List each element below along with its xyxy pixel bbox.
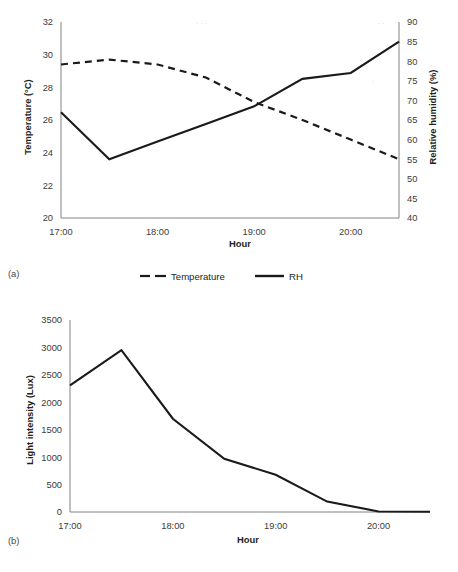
svg-text:22: 22 xyxy=(43,181,53,191)
chart-b-x-axis-title: Hour xyxy=(237,534,259,545)
chart-b-series-light-intensity xyxy=(70,350,430,512)
figure-container: · · · · · · 32302826242220 9085807570656… xyxy=(0,0,458,572)
chart-panel-b: 3500300025002000150010005000 17:0018:001… xyxy=(0,292,458,572)
scan-artifact: · · xyxy=(378,20,385,27)
chart-a-left-tick-labels: 32302826242220 xyxy=(43,17,53,223)
svg-text:19:00: 19:00 xyxy=(243,227,266,237)
svg-text:30: 30 xyxy=(43,50,53,60)
chart-a-canvas: · · · · · · 32302826242220 9085807570656… xyxy=(0,0,458,292)
svg-text:70: 70 xyxy=(407,96,417,106)
svg-text:90: 90 xyxy=(407,17,417,27)
svg-text:3500: 3500 xyxy=(41,315,62,325)
chart-b-canvas: 3500300025002000150010005000 17:0018:001… xyxy=(0,292,458,572)
svg-text:0: 0 xyxy=(57,507,62,517)
panel-tag-b: (b) xyxy=(8,535,19,546)
svg-text:18:00: 18:00 xyxy=(146,227,169,237)
svg-text:19:00: 19:00 xyxy=(264,521,287,531)
chart-panel-a: · · · · · · 32302826242220 9085807570656… xyxy=(0,0,458,292)
scan-artifact: · · · xyxy=(196,20,207,27)
chart-a-legend: Temperature RH xyxy=(140,271,303,282)
svg-text:60: 60 xyxy=(407,135,417,145)
svg-text:40: 40 xyxy=(407,213,417,223)
chart-b-left-tick-labels: 3500300025002000150010005000 xyxy=(41,315,62,517)
chart-a-right-tick-labels: 9085807570656055504540 xyxy=(407,17,417,223)
svg-text:50: 50 xyxy=(407,174,417,184)
legend-label-rh: RH xyxy=(289,271,303,282)
svg-text:1500: 1500 xyxy=(41,425,62,435)
svg-text:17:00: 17:00 xyxy=(49,227,72,237)
chart-a-x-axis-title: Hour xyxy=(229,238,251,249)
chart-a-right-axis-title: Relative humidity (%) xyxy=(427,70,438,165)
svg-text:28: 28 xyxy=(43,83,53,93)
chart-a-x-tick-labels: 17:0018:0019:0020:00 xyxy=(49,227,362,237)
chart-a-axis-frame xyxy=(61,22,399,218)
svg-text:24: 24 xyxy=(43,148,53,158)
chart-b-x-tick-labels: 17:0018:0019:0020:00 xyxy=(58,521,390,531)
chart-a-series-temperature xyxy=(61,60,399,160)
svg-text:85: 85 xyxy=(407,37,417,47)
svg-text:80: 80 xyxy=(407,57,417,67)
svg-text:75: 75 xyxy=(407,76,417,86)
svg-text:500: 500 xyxy=(46,480,62,490)
svg-text:20:00: 20:00 xyxy=(339,227,362,237)
svg-text:26: 26 xyxy=(43,115,53,125)
svg-text:32: 32 xyxy=(43,17,53,27)
svg-text:20: 20 xyxy=(43,213,53,223)
chart-b-left-axis-title: Light intensity (Lux) xyxy=(24,375,35,465)
svg-text:18:00: 18:00 xyxy=(161,521,184,531)
svg-text:1000: 1000 xyxy=(41,453,62,463)
svg-text:2500: 2500 xyxy=(41,370,62,380)
svg-text:17:00: 17:00 xyxy=(58,521,81,531)
svg-text:2000: 2000 xyxy=(41,398,62,408)
svg-text:65: 65 xyxy=(407,115,417,125)
legend-label-temperature: Temperature xyxy=(171,271,225,282)
chart-a-left-axis-title: Temperature (°C) xyxy=(22,79,33,154)
svg-text:45: 45 xyxy=(407,194,417,204)
svg-text:55: 55 xyxy=(407,155,417,165)
chart-b-axis-frame xyxy=(70,320,430,512)
svg-text:3000: 3000 xyxy=(41,343,62,353)
svg-text:20:00: 20:00 xyxy=(367,521,390,531)
panel-tag-a: (a) xyxy=(8,268,19,279)
scan-artifact: · xyxy=(372,78,374,85)
